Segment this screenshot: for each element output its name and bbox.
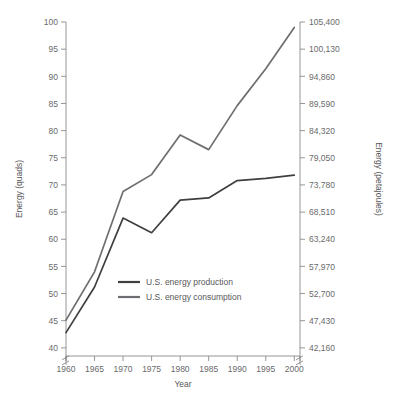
y-tick-label-left: 65 [49,207,59,217]
legend-label-0: U.S. energy production [146,277,233,287]
x-tick-label: 1975 [142,364,161,374]
y-tick-label-right: 105,400 [309,17,340,27]
x-tick-label: 1985 [199,364,218,374]
x-tick-label: 1970 [114,364,133,374]
y-axis-title-right: Energy (petajoules) [374,142,384,216]
y-tick-label-right: 47,430 [309,316,335,326]
y-tick-label-right: 68,510 [309,207,335,217]
y-tick-label-right: 89,590 [309,99,335,109]
y-tick-label-right: 63,240 [309,234,335,244]
y-tick-label-left: 40 [49,343,59,353]
x-tick-label: 2000 [285,364,304,374]
y-tick-label-right: 79,050 [309,153,335,163]
x-tick-label: 1995 [256,364,275,374]
chart-canvas: 40455055606570758085909510042,16047,4305… [0,0,398,410]
x-tick-label: 1960 [57,364,76,374]
x-tick-label: 1990 [228,364,247,374]
y-tick-label-right: 94,860 [309,72,335,82]
energy-line-chart: 40455055606570758085909510042,16047,4305… [0,0,398,410]
y-tick-label-right: 52,700 [309,289,335,299]
y-tick-label-right: 57,970 [309,262,335,272]
y-tick-label-left: 80 [49,126,59,136]
y-tick-label-right: 84,320 [309,126,335,136]
y-tick-label-right: 73,780 [309,180,335,190]
y-tick-label-left: 75 [49,153,59,163]
y-tick-label-right: 100,130 [309,44,340,54]
y-tick-label-left: 100 [44,17,58,27]
y-axis-title-left: Energy (quads) [14,160,24,218]
y-tick-label-left: 70 [49,180,59,190]
y-tick-label-left: 50 [49,289,59,299]
x-tick-label: 1965 [85,364,104,374]
x-axis-title: Year [174,379,191,389]
y-tick-label-left: 45 [49,316,59,326]
y-tick-label-right: 42,160 [309,343,335,353]
y-tick-label-left: 85 [49,99,59,109]
legend-label-1: U.S. energy consumption [146,292,242,302]
y-tick-label-left: 90 [49,72,59,82]
y-tick-label-left: 60 [49,234,59,244]
y-tick-label-left: 55 [49,262,59,272]
y-tick-label-left: 95 [49,44,59,54]
x-tick-label: 1980 [171,364,190,374]
